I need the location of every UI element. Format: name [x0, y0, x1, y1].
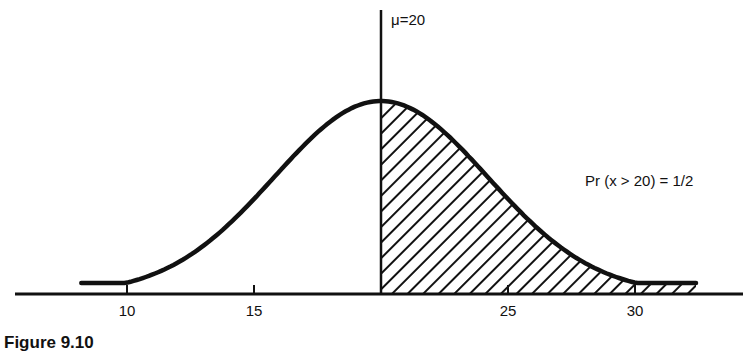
tick-label-30: 30	[627, 302, 644, 319]
probability-label: Pr (x > 20) = 1/2	[585, 172, 693, 189]
tick-label-25: 25	[500, 302, 517, 319]
mean-label: μ=20	[391, 11, 425, 28]
tick-label-15: 15	[246, 302, 263, 319]
tick-label-10: 10	[119, 302, 136, 319]
shaded-area-x-gt-20	[381, 101, 696, 294]
figure-caption: Figure 9.10	[4, 333, 94, 353]
